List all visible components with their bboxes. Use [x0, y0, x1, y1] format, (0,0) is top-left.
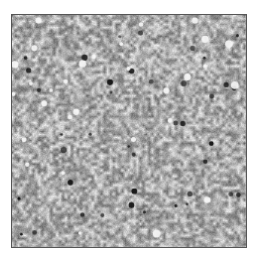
- noise-texture-frame: [11, 14, 247, 248]
- noise-texture-image: [12, 15, 246, 247]
